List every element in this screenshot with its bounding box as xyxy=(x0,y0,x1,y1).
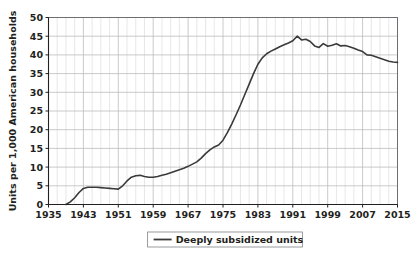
chart-container: 05101520253035404550 1935194319511959196… xyxy=(0,0,419,255)
x-tick-label: 2007 xyxy=(349,209,375,220)
x-tick-label: 1935 xyxy=(35,209,61,220)
x-tick-label: 1975 xyxy=(210,209,236,220)
y-tick-label: 5 xyxy=(36,180,43,191)
chart-legend: Deeply subsidized units xyxy=(148,232,304,247)
x-tick-label: 1991 xyxy=(280,209,306,220)
line-chart: 05101520253035404550 1935194319511959196… xyxy=(0,0,419,255)
x-tick-label: 1967 xyxy=(175,209,201,220)
y-tick-label: 35 xyxy=(30,68,43,79)
y-tick-label: 30 xyxy=(30,87,44,98)
y-tick-label: 10 xyxy=(30,162,44,173)
y-tick-label: 25 xyxy=(30,105,43,116)
y-axis-title: Units per 1,000 American households xyxy=(7,10,18,211)
x-tick-label: 1999 xyxy=(314,209,340,220)
y-tick-label: 45 xyxy=(30,31,43,42)
x-tick-label: 1983 xyxy=(245,209,271,220)
x-tick-label: 1943 xyxy=(70,209,96,220)
y-tick-label: 50 xyxy=(30,12,44,23)
x-tick-label: 2015 xyxy=(384,209,410,220)
y-tick-label: 20 xyxy=(30,124,44,135)
legend-label: Deeply subsidized units xyxy=(176,234,304,245)
x-tick-label: 1951 xyxy=(105,209,131,220)
y-tick-label: 40 xyxy=(30,49,44,60)
y-tick-label: 15 xyxy=(30,143,43,154)
x-tick-label: 1959 xyxy=(140,209,166,220)
